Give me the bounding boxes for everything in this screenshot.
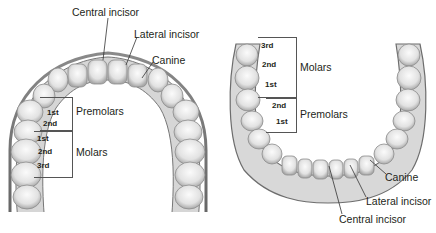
lower-lateral-incisor-label: Lateral incisor [366, 196, 431, 207]
upper-central-incisor-label: Central incisor [72, 7, 139, 18]
lower-molar-3rd: 3rd [261, 42, 273, 50]
upper-lateral-incisor-label: Lateral incisor [134, 29, 199, 40]
lower-central-incisor-label: Central incisor [339, 214, 406, 225]
lower-premolar-1st: 1st [276, 118, 288, 126]
upper-premolars-label: Premolars [76, 106, 124, 117]
lower-canine-label: Canine [385, 172, 418, 183]
lower-premolar-2nd: 2nd [272, 102, 286, 110]
upper-canine-label: Canine [152, 55, 185, 66]
upper-molar-3rd: 3rd [37, 162, 49, 170]
upper-premolar-2nd: 2nd [43, 120, 57, 128]
lower-premolars-label: Premolars [300, 109, 348, 120]
upper-molar-2nd: 2nd [38, 148, 52, 156]
upper-arch [0, 18, 220, 233]
upper-molars-label: Molars [76, 147, 108, 158]
lower-molar-2nd: 2nd [262, 61, 276, 69]
upper-molar-1st: 1st [37, 135, 49, 143]
upper-premolar-1st: 1st [47, 109, 59, 117]
lower-molar-1st: 1st [265, 81, 277, 89]
lower-molars-label: Molars [300, 62, 332, 73]
